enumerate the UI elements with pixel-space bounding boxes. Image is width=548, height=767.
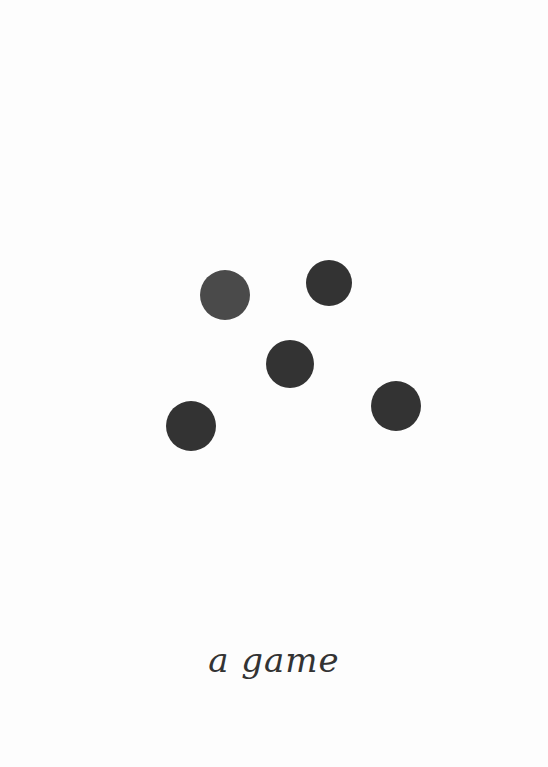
game-dot-1[interactable]	[200, 270, 250, 320]
game-page: a game	[0, 0, 548, 767]
game-dot-2[interactable]	[306, 260, 352, 306]
game-dot-5[interactable]	[166, 401, 216, 451]
game-title: a game	[0, 640, 548, 680]
game-dot-3[interactable]	[266, 340, 314, 388]
game-dot-4[interactable]	[371, 381, 421, 431]
